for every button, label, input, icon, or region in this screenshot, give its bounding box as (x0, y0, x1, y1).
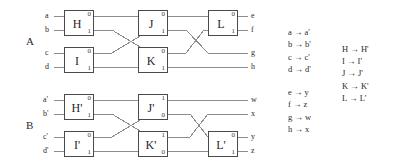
gate-H-port-bottom: 1 (88, 28, 92, 35)
output-port-w: w (251, 96, 257, 104)
arrow-icon: → (294, 27, 303, 37)
map-I-from: I (342, 56, 345, 66)
map-H-from: H (342, 44, 348, 54)
arrow-icon: → (294, 112, 303, 122)
map-f-from: f (288, 99, 291, 109)
gate-I-prime-port-top: 0 (88, 132, 92, 139)
arrow-icon: → (294, 87, 303, 97)
map-H-to: H' (361, 44, 369, 54)
gate-H-prime-port-top: 0 (88, 95, 92, 102)
map-e-to: y (305, 87, 309, 97)
map-row-H: H → H' (342, 43, 369, 55)
map-L-to: L' (360, 93, 367, 103)
map-row-f: f → z (288, 98, 311, 110)
map-row-J: J → J' (342, 67, 369, 79)
map-row-a: a → a' (288, 26, 311, 38)
map-e-from: e (288, 87, 292, 97)
output-port-h: h (251, 63, 255, 71)
gate-K-prime[interactable]: K' 1 0 (138, 131, 168, 157)
input-port-c-prime: c' (43, 133, 48, 141)
output-mapping-list: e → y f → z g → w h → x (288, 86, 311, 135)
input-port-c: c (45, 49, 49, 57)
map-c-to: c' (305, 52, 310, 62)
gate-I-prime[interactable]: I' 0 1 (64, 131, 94, 157)
output-port-f: f (251, 26, 254, 34)
gate-mapping-list: H → H' I → I' J → J' K → K' L → L' (342, 43, 369, 104)
gate-H-prime[interactable]: H' 0 1 (64, 94, 94, 120)
map-row-g: g → w (288, 111, 311, 123)
gate-L-prime[interactable]: L' 0 1 (208, 131, 238, 157)
gate-L-port-top: 0 (232, 11, 236, 18)
signal-mapping-list: a → a' b → b' c → c' d → d' (288, 26, 311, 75)
gate-L-port-bottom: 1 (232, 28, 236, 35)
gate-J-prime[interactable]: J' 1 0 (138, 94, 168, 120)
map-h-from: h (288, 124, 292, 134)
map-a-from: a (288, 27, 292, 37)
input-port-b: b (45, 26, 49, 34)
map-g-to: w (305, 112, 311, 122)
map-row-L: L → L' (342, 92, 369, 104)
gate-K-port-bottom: 1 (162, 65, 166, 72)
gate-I[interactable]: I 0 1 (64, 47, 94, 73)
map-K-from: K (342, 81, 348, 91)
input-port-a: a (45, 12, 49, 20)
gate-K[interactable]: K 0 1 (138, 47, 168, 73)
arrow-icon: → (350, 44, 359, 54)
map-d-to: d' (305, 64, 311, 74)
gate-H-prime-port-bottom: 1 (88, 112, 92, 119)
arrow-icon: → (349, 93, 358, 103)
gate-I-prime-port-bottom: 1 (88, 149, 92, 156)
map-a-to: a' (305, 27, 310, 37)
map-row-d: d → d' (288, 63, 311, 75)
output-port-y: y (251, 133, 255, 141)
gate-L-prime-port-bottom: 1 (232, 149, 236, 156)
arrow-icon: → (294, 124, 303, 134)
wire-layer (0, 0, 394, 164)
gate-K-port-top: 0 (162, 48, 166, 55)
input-port-a-prime: a' (43, 96, 48, 104)
output-port-x: x (251, 110, 255, 118)
map-I-to: I' (358, 56, 362, 66)
output-port-z: z (251, 147, 255, 155)
gate-H-port-top: 0 (88, 11, 92, 18)
output-port-g: g (251, 49, 255, 57)
map-c-from: c (288, 52, 292, 62)
map-g-from: g (288, 112, 292, 122)
output-port-e: e (251, 12, 255, 20)
map-row-I: I → I' (342, 55, 369, 67)
panel-label-A: A (26, 35, 34, 47)
gate-J-port-top: 0 (162, 11, 166, 18)
gate-J-prime-port-bottom: 0 (162, 112, 166, 119)
panel-label-B: B (26, 119, 33, 131)
gate-K-prime-port-bottom: 0 (162, 149, 166, 156)
gate-J-prime-port-top: 1 (162, 95, 166, 102)
map-h-to: x (305, 124, 309, 134)
gate-L[interactable]: L 0 1 (208, 10, 238, 36)
input-port-d-prime: d' (43, 147, 48, 155)
gate-H[interactable]: H 0 1 (64, 10, 94, 36)
map-J-to: J' (358, 68, 363, 78)
gate-I-port-top: 0 (88, 48, 92, 55)
map-row-e: e → y (288, 86, 311, 98)
map-b-to: b' (305, 39, 311, 49)
arrow-icon: → (347, 56, 356, 66)
input-port-d: d (45, 63, 49, 71)
gate-J[interactable]: J 0 1 (138, 10, 168, 36)
input-port-b-prime: b' (43, 110, 48, 118)
map-row-K: K → K' (342, 80, 369, 92)
arrow-icon: → (294, 52, 303, 62)
gate-K-prime-port-top: 1 (162, 132, 166, 139)
map-J-from: J (342, 68, 345, 78)
arrow-icon: → (294, 64, 303, 74)
map-row-c: c → c' (288, 51, 311, 63)
map-row-h: h → x (288, 123, 311, 135)
map-K-to: K' (361, 81, 369, 91)
map-row-b: b → b' (288, 38, 311, 50)
arrow-icon: → (350, 81, 359, 91)
arrow-icon: → (347, 68, 356, 78)
gate-I-port-bottom: 1 (88, 65, 92, 72)
arrow-icon: → (293, 99, 302, 109)
diagram-canvas: A a b c d e f g h H 0 1 I 0 1 J 0 1 K 0 … (0, 0, 394, 164)
map-b-from: b (288, 39, 292, 49)
map-f-to: z (304, 99, 308, 109)
